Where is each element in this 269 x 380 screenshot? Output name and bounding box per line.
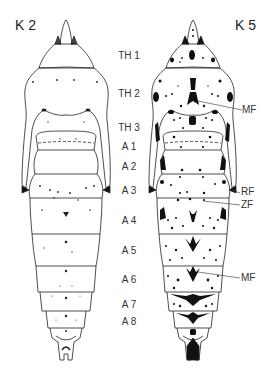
- segment-label-a2: A 2: [115, 162, 143, 172]
- segment-label-a5: A 5: [115, 246, 143, 256]
- annotation-zf: ZF: [241, 200, 253, 210]
- k5-larva-outline: [149, 20, 236, 360]
- k2-spots: [32, 79, 98, 332]
- larva-comparison-figure: K 2 K 5 TH 1 TH 2 TH 3 A 1 A 2 A 3 A 4 A…: [0, 0, 269, 380]
- segment-label-a3: A 3: [115, 186, 143, 196]
- annotation-rf: RF: [241, 187, 254, 197]
- k2-larva-outline: [22, 20, 110, 360]
- annotation-mf-abdomen: MF: [241, 273, 255, 283]
- segment-label-a4: A 4: [115, 216, 143, 226]
- segment-label-a7: A 7: [115, 300, 143, 310]
- segment-label-th2: TH 2: [115, 89, 143, 99]
- segment-label-th3: TH 3: [115, 123, 143, 133]
- segment-label-a1: A 1: [115, 142, 143, 152]
- segment-label-a8: A 8: [115, 317, 143, 327]
- k2-title: K 2: [15, 18, 36, 32]
- annotation-mf-thorax: MF: [242, 105, 256, 115]
- segment-label-th1: TH 1: [115, 51, 143, 61]
- segment-label-a6: A 6: [115, 275, 143, 285]
- k5-title: K 5: [235, 18, 256, 32]
